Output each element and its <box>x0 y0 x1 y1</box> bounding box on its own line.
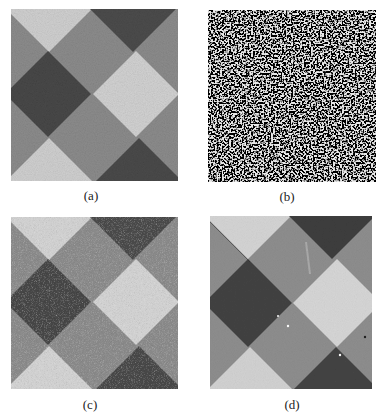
image-panel-b <box>208 10 376 182</box>
checkerboard-image-c <box>11 217 178 389</box>
caption-a: (a) <box>71 189 111 203</box>
caption-c: (c) <box>70 398 110 412</box>
caption-d: (d) <box>272 398 312 412</box>
caption-b: (b) <box>267 190 307 204</box>
image-panel-d <box>210 216 372 389</box>
noisy-image-b <box>208 10 376 182</box>
checkerboard-image-a <box>11 9 178 181</box>
image-panel-c <box>11 217 178 389</box>
image-panel-a <box>11 9 178 181</box>
restored-image-d <box>210 216 372 389</box>
